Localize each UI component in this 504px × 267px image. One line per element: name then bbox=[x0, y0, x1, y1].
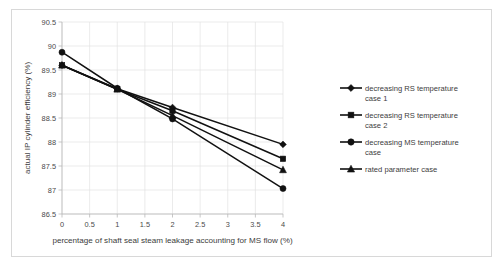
legend-label: decreasing RS temperature bbox=[365, 84, 458, 93]
legend-label: decreasing MS temperature bbox=[365, 138, 459, 147]
y-tick-label: 86.5 bbox=[42, 210, 56, 219]
x-tick-label: 1.5 bbox=[140, 220, 150, 229]
marker-diamond bbox=[348, 85, 355, 92]
x-tick-label: 2.5 bbox=[195, 220, 205, 229]
y-axis-title: actual IP cylinder efficiency (%) bbox=[23, 62, 32, 174]
x-tick-label: 3.5 bbox=[250, 220, 260, 229]
x-axis: 00.511.522.533.54 bbox=[60, 214, 285, 229]
x-axis-title: percentage of shaft seal steam leakage a… bbox=[52, 236, 293, 245]
legend-item[interactable]: rated parameter case bbox=[340, 165, 437, 174]
legend-label-line2: case 2 bbox=[365, 121, 387, 130]
legend-label: rated parameter case bbox=[365, 165, 437, 174]
marker-square bbox=[280, 156, 285, 161]
legend-label: decreasing RS temperature bbox=[365, 111, 458, 120]
legend-item[interactable]: decreasing RS temperaturecase 1 bbox=[340, 84, 458, 103]
x-tick-label: 0 bbox=[60, 220, 64, 229]
y-tick-label: 88.5 bbox=[42, 114, 56, 123]
legend-label-line2: case 1 bbox=[365, 94, 387, 103]
marker-circle bbox=[280, 186, 286, 192]
x-tick-label: 0.5 bbox=[84, 220, 94, 229]
y-tick-label: 90 bbox=[48, 42, 56, 51]
y-tick-label: 89 bbox=[48, 90, 56, 99]
line-chart: 86.58787.58888.58989.59090.500.511.522.5… bbox=[0, 0, 504, 267]
legend: decreasing RS temperaturecase 1decreasin… bbox=[340, 84, 459, 174]
x-tick-label: 1 bbox=[115, 220, 119, 229]
marker-circle bbox=[348, 139, 354, 145]
legend-label-line2: case bbox=[365, 148, 381, 157]
x-tick-label: 3 bbox=[226, 220, 230, 229]
y-axis: 86.58787.58888.58989.59090.5 bbox=[42, 18, 62, 219]
chart-figure: 86.58787.58888.58989.59090.500.511.522.5… bbox=[0, 0, 504, 267]
y-tick-label: 87 bbox=[48, 186, 56, 195]
y-tick-label: 90.5 bbox=[42, 18, 56, 27]
legend-item[interactable]: decreasing MS temperaturecase bbox=[340, 138, 459, 157]
marker-square bbox=[348, 112, 354, 118]
x-tick-label: 4 bbox=[281, 220, 285, 229]
y-tick-label: 89.5 bbox=[42, 66, 56, 75]
legend-item[interactable]: decreasing RS temperaturecase 2 bbox=[340, 111, 458, 130]
x-tick-label: 2 bbox=[170, 220, 174, 229]
y-tick-label: 88 bbox=[48, 138, 56, 147]
marker-circle bbox=[59, 49, 65, 55]
y-tick-label: 87.5 bbox=[42, 162, 56, 171]
